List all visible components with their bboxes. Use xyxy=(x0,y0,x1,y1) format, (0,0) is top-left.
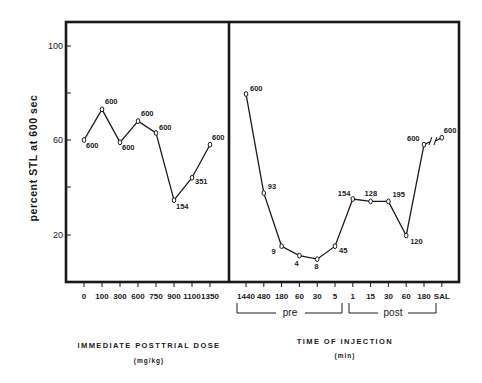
y-axis-title: percent STL at 600 sec xyxy=(27,95,39,222)
data-point-marker xyxy=(208,142,212,147)
pre-label: pre xyxy=(283,307,298,318)
data-point-label: 120 xyxy=(410,237,423,246)
data-point-label: 154 xyxy=(176,202,189,211)
right-x-tick-label: 180 xyxy=(417,292,431,301)
data-point-label: 600 xyxy=(105,97,118,106)
right-x-axis-title: TIME OF INJECTION xyxy=(297,337,393,346)
right-x-tick-label: 30 xyxy=(384,292,393,301)
right-x-tick-label: 15 xyxy=(366,292,375,301)
data-point-marker xyxy=(244,92,248,97)
data-point-label: 8 xyxy=(314,262,318,271)
right-x-tick-label: 1 xyxy=(351,292,356,301)
data-point-label: 600 xyxy=(141,109,154,118)
data-line xyxy=(84,109,210,200)
data-point-label: 195 xyxy=(392,190,405,199)
data-point-marker xyxy=(315,257,319,262)
y-tick-label-20: 20 xyxy=(53,230,63,240)
right-x-tick-label: SAL xyxy=(434,292,450,301)
right-x-axis-units: (min) xyxy=(335,352,356,360)
data-point-label: 128 xyxy=(365,189,378,198)
left-x-axis-title: IMMEDIATE POSTTRIAL DOSE xyxy=(78,341,221,350)
data-point-label: 600 xyxy=(212,133,225,142)
data-point-label: 600 xyxy=(122,143,135,152)
data-point-marker xyxy=(387,199,391,204)
right-x-tick-label: 30 xyxy=(313,292,322,301)
right-x-tick-label: 180 xyxy=(275,292,289,301)
post-label: post xyxy=(384,307,403,318)
y-tick-label-100: 100 xyxy=(48,41,63,51)
data-point-label: 600 xyxy=(86,141,99,150)
data-point-marker xyxy=(298,253,302,258)
data-point-marker xyxy=(369,199,373,204)
data-point-label: 154 xyxy=(338,189,351,198)
data-point-marker xyxy=(404,233,408,238)
data-point-marker xyxy=(100,107,104,112)
data-point-label: 351 xyxy=(195,177,208,186)
left-x-tick-label: 100 xyxy=(95,292,109,301)
x-axis: 0100300600750900110013501440480180603051… xyxy=(82,282,450,301)
series-left-dose: 600600600600600154351600 xyxy=(82,97,224,211)
axis-break-mark xyxy=(434,137,437,145)
chart: 100 60 20 percent STL at 600 sec 0100300… xyxy=(0,0,482,383)
data-point-marker xyxy=(280,244,284,249)
data-point-marker xyxy=(190,175,194,180)
data-point-label: 600 xyxy=(250,84,263,93)
left-x-tick-label: 900 xyxy=(167,292,181,301)
data-point-marker xyxy=(136,119,140,124)
data-point-label: 9 xyxy=(272,247,276,256)
right-x-tick-label: 480 xyxy=(257,292,271,301)
left-x-tick-label: 1100 xyxy=(183,292,201,301)
data-point-marker xyxy=(333,244,337,249)
data-point-label: 93 xyxy=(268,182,276,191)
series-right-time: 6009394845154128195120600600 xyxy=(244,84,456,271)
right-x-tick-label: 60 xyxy=(295,292,304,301)
left-x-tick-label: 300 xyxy=(113,292,127,301)
right-x-tick-label: 1440 xyxy=(237,292,255,301)
data-point-marker xyxy=(262,191,266,196)
data-point-label: 600 xyxy=(159,123,172,132)
data-point-label: 600 xyxy=(407,134,420,143)
y-tick-label-60: 60 xyxy=(53,135,63,145)
right-x-tick-label: 60 xyxy=(402,292,411,301)
left-x-tick-label: 0 xyxy=(82,292,87,301)
data-point-marker xyxy=(422,142,426,147)
data-point-marker xyxy=(440,135,444,140)
data-point-label: 600 xyxy=(444,126,457,135)
left-x-tick-label: 600 xyxy=(131,292,145,301)
chart-canvas: 100 60 20 percent STL at 600 sec 0100300… xyxy=(0,0,482,383)
axis-break-mark xyxy=(429,137,432,145)
data-point-label: 45 xyxy=(339,246,347,255)
data-point-marker xyxy=(351,197,355,202)
left-x-axis-units: (mg/kg) xyxy=(134,357,164,365)
data-point-label: 4 xyxy=(294,259,299,268)
left-x-tick-label: 750 xyxy=(149,292,163,301)
left-x-tick-label: 1350 xyxy=(201,292,219,301)
data-point-marker xyxy=(154,131,158,136)
right-x-tick-label: 5 xyxy=(333,292,338,301)
data-line xyxy=(246,94,424,259)
